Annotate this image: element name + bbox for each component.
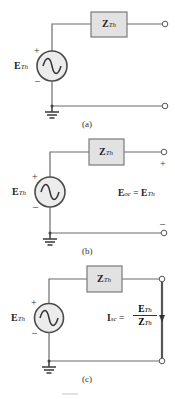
impedance-label: ZTh xyxy=(97,274,111,284)
source-label: ETh xyxy=(11,313,25,323)
impedance-label: ZTh xyxy=(99,147,113,157)
source-minus-sign: – xyxy=(33,202,38,212)
thevenin-fraction: ETh ZTh xyxy=(133,304,157,327)
current-arrow-icon xyxy=(159,315,165,322)
source-minus-sign: – xyxy=(35,76,40,86)
terminal-minus-sign: – xyxy=(160,219,165,229)
terminal-icon xyxy=(159,276,165,282)
short-circuit-current-label: Isc = xyxy=(107,314,124,324)
panel-caption: (c) xyxy=(82,375,92,384)
source-label: ETh xyxy=(12,187,26,197)
terminal-icon xyxy=(161,230,167,236)
source-minus-sign: – xyxy=(32,328,37,338)
fraction-bar xyxy=(133,315,157,316)
terminal-plus-sign: + xyxy=(160,159,166,169)
terminal-icon xyxy=(162,21,168,27)
terminal-icon xyxy=(161,149,167,155)
source-plus-sign: + xyxy=(34,46,40,56)
fraction-denominator: ZTh xyxy=(133,317,157,327)
terminal-icon xyxy=(162,103,168,109)
ground-icon xyxy=(43,233,57,245)
source-plus-sign: + xyxy=(31,298,37,308)
ground-icon xyxy=(42,361,56,373)
impedance-label: ZTh xyxy=(102,19,116,29)
open-circuit-equation: Eoc = ETh xyxy=(118,189,155,199)
source-label: ETh xyxy=(14,61,28,71)
panel-caption: (a) xyxy=(82,120,92,129)
circuit-diagram xyxy=(0,0,175,399)
source-plus-sign: + xyxy=(32,172,38,182)
ground-icon xyxy=(45,106,59,118)
terminal-icon xyxy=(159,358,165,364)
fraction-numerator: ETh xyxy=(133,304,157,314)
panel-caption: (b) xyxy=(82,247,93,256)
